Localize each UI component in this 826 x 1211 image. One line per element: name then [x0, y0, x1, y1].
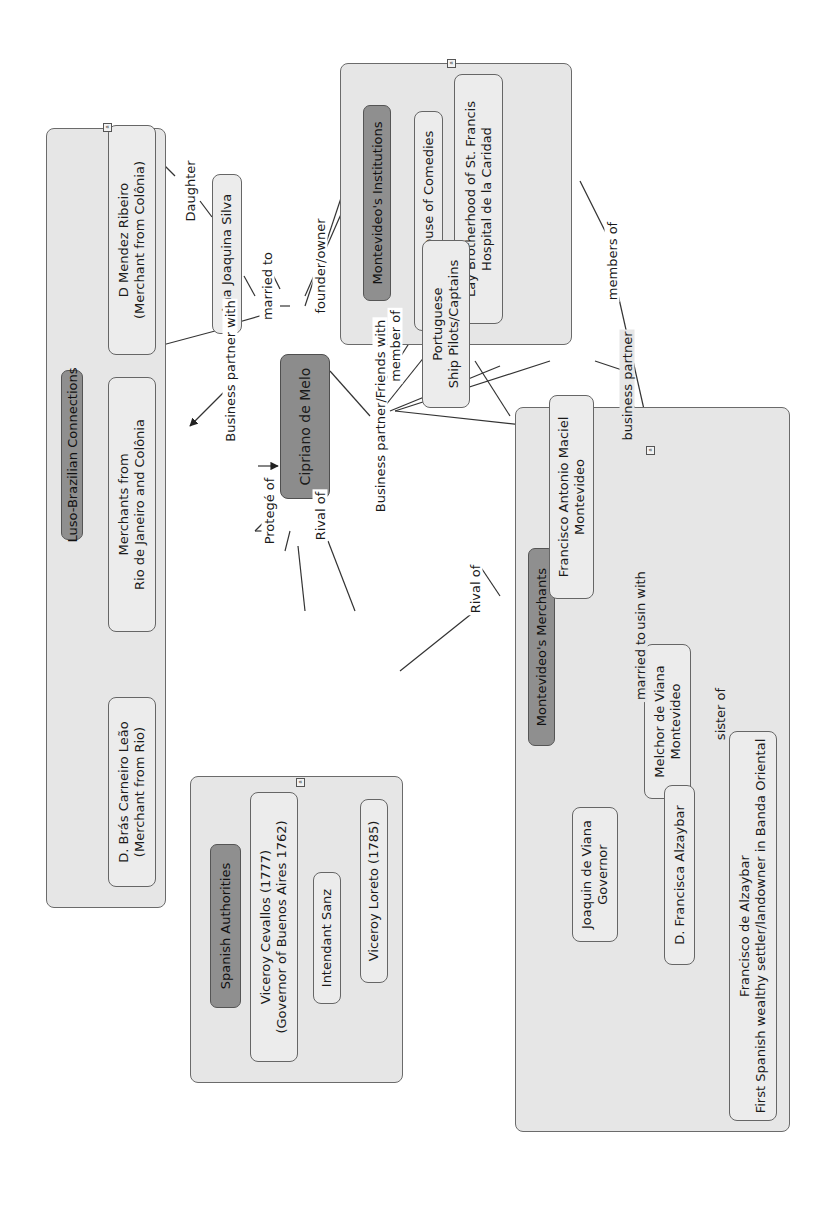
- node-melchor-de-viana[interactable]: Melchor de Viana Montevideo: [644, 644, 691, 799]
- node-merchants-rio-colonia[interactable]: Merchants from Rio de Janeiro and Colôni…: [108, 377, 156, 632]
- collapse-icon-merchants[interactable]: «: [646, 446, 655, 455]
- link-label-founder-owner: founder/owner: [313, 216, 328, 315]
- link-label-business-partner-friends-with: Business partner/Friends with: [373, 318, 388, 515]
- link-label-business-partner-with: Business partner with: [223, 298, 238, 443]
- link-label-business-partner: business partner: [620, 329, 635, 442]
- node-joaquin-de-viana-box[interactable]: Joaquin de Viana Governor: [572, 807, 618, 942]
- link-label-married-to-2: married to: [633, 630, 648, 702]
- node-francisca-alzaybar-box[interactable]: D. Francisca Alzaybar: [664, 785, 695, 965]
- node-portuguese-ship-pilots[interactable]: Portuguese Ship Pilots/Captains: [422, 240, 470, 408]
- group-title-spanish-authorities: Spanish Authorities: [210, 844, 241, 1008]
- link-label-protege-of: Protegé of: [262, 476, 277, 547]
- collapse-icon-institutions[interactable]: «: [447, 59, 456, 68]
- node-mendez-ribeiro[interactable]: D Mendez Ribeiro (Merchant from Colônia): [108, 125, 156, 355]
- node-bras-carneiro-leao[interactable]: D. Brás Carneiro Leão (Merchant from Rio…: [108, 697, 156, 887]
- link-label-daughter: Daughter: [183, 158, 198, 223]
- node-cipriano-de-melo[interactable]: Cipriano de Melo: [280, 354, 330, 499]
- collapse-icon-spanish-authorities[interactable]: «: [296, 778, 305, 787]
- collapse-icon-luso-brazilian[interactable]: «: [103, 123, 112, 132]
- group-montevideo-merchants[interactable]: Montevideo's Merchants Francisco Antonio…: [515, 407, 790, 1132]
- group-luso-brazilian[interactable]: Luso-Brazilian Connections D Mendez Ribe…: [46, 128, 166, 908]
- node-francisco-de-alzaybar[interactable]: Francisco de Alzaybar First Spanish weal…: [729, 731, 777, 1121]
- node-francisco-antonio-maciel[interactable]: Francisco Antonio Maciel Montevideo: [549, 395, 594, 599]
- group-spanish-authorities[interactable]: Spanish Authorities Viceroy Cevallos (17…: [190, 776, 403, 1083]
- node-viceroy-loreto[interactable]: Viceroy Loreto (1785): [360, 799, 388, 983]
- link-label-members-of: members of: [605, 220, 620, 302]
- concept-map-canvas: Luso-Brazilian Connections D Mendez Ribe…: [0, 0, 826, 1211]
- link-label-rival-of-merchants: Rival of: [468, 563, 483, 616]
- link-label-married-to: married to: [260, 250, 275, 322]
- group-title-luso-brazilian: Luso-Brazilian Connections: [61, 370, 83, 540]
- node-intendant-sanz[interactable]: Intendant Sanz: [313, 872, 341, 1004]
- link-label-sister-of: sister of: [713, 686, 728, 742]
- link-label-rival-of-loreto: Rival of: [313, 490, 328, 543]
- link-label-member-of: member of: [388, 308, 403, 384]
- node-viceroy-cevallos[interactable]: Viceroy Cevallos (1777) (Governor of Bue…: [250, 792, 298, 1062]
- group-title-institutions: Montevideo's Institutions: [363, 105, 391, 301]
